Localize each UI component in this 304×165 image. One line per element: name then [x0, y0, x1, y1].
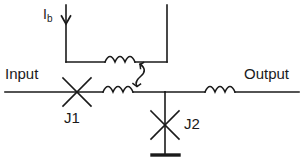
inductor-main-right	[205, 87, 235, 93]
junction-j2-label: J2	[184, 116, 200, 131]
junction-j1-label: J1	[64, 110, 80, 125]
circuit-diagram: Input Output J1 J2 Ib	[0, 0, 304, 165]
circuit-schematic-svg	[0, 0, 304, 165]
bias-current-subscript: b	[47, 13, 53, 24]
input-label: Input	[5, 66, 38, 81]
bias-current-label: Ib	[43, 7, 52, 21]
inductor-bias-loop	[105, 57, 135, 63]
inductor-main-left	[103, 87, 133, 93]
output-label: Output	[244, 66, 289, 81]
